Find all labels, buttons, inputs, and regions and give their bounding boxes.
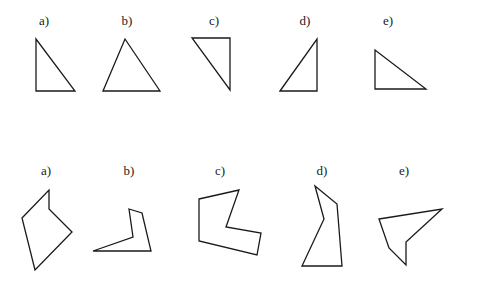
polygon-d	[302, 186, 342, 266]
triangles-label-d: d)	[300, 13, 311, 28]
polygons-label-d: d)	[317, 163, 328, 178]
polygons-label-b: b)	[124, 163, 135, 178]
polygon-a	[22, 190, 72, 270]
figure-canvas: a)b)c)d)e)a)b)c)d)e)	[0, 0, 482, 286]
polygon-e	[379, 209, 442, 265]
polygons-label-a: a)	[41, 163, 51, 178]
triangle-d	[280, 39, 317, 91]
triangles-label-a: a)	[39, 13, 49, 28]
polygon-b	[93, 209, 151, 251]
triangle-e	[375, 50, 426, 89]
triangle-b	[103, 39, 160, 91]
polygons-label-c: c)	[215, 163, 225, 178]
triangle-a	[36, 39, 75, 91]
triangle-c	[192, 38, 230, 90]
polygon-c	[199, 190, 261, 255]
polygons-label-e: e)	[399, 163, 409, 178]
triangles-label-c: c)	[209, 13, 219, 28]
triangles-label-e: e)	[383, 13, 393, 28]
triangles-label-b: b)	[122, 13, 133, 28]
